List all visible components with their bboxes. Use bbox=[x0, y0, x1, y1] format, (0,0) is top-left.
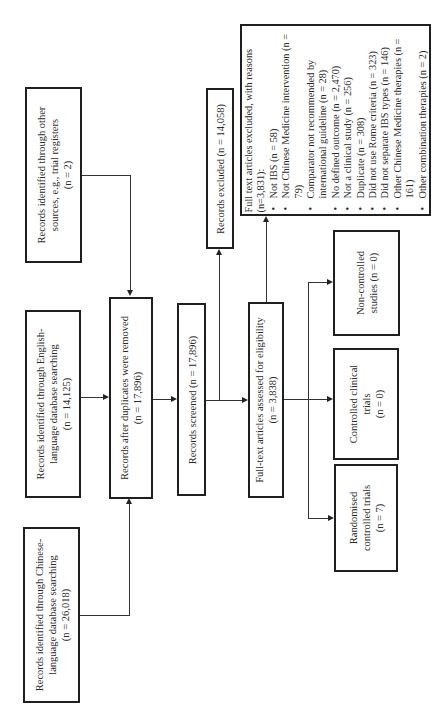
exclusion-reason: No defined outcome (n = 2,470) bbox=[329, 28, 341, 199]
other-sources-box: Records identified through other sources… bbox=[25, 87, 82, 263]
english-database-box: Records identified through English- lang… bbox=[25, 310, 81, 498]
exclusion-reason: Duplicate (n = 308) bbox=[354, 28, 366, 199]
non-controlled-box: Non-controlled studies (n = 0) bbox=[333, 230, 400, 336]
records-excluded-text: Records excluded (n = 14,058) bbox=[214, 90, 227, 248]
records-screened-box: Records screened (n = 17,896) bbox=[177, 303, 206, 496]
connector-line bbox=[129, 500, 130, 616]
exclusion-reason: Did not use Rome criteria (n = 323) bbox=[367, 28, 379, 199]
exclusion-reason: Did not separate IBS types (n = 146) bbox=[379, 28, 391, 199]
exclusion-reason: Not a clinical study (n = 256) bbox=[342, 28, 354, 199]
connector-line bbox=[266, 222, 267, 302]
connector-line bbox=[130, 175, 131, 291]
exclusion-reason: Other Chinese Medicine therapies (n = 16… bbox=[391, 28, 416, 199]
chinese-database-box: Records identified through Chinese- lang… bbox=[23, 527, 80, 703]
after-duplicates-text: Records after duplicates were removed (n… bbox=[118, 300, 144, 496]
arrow-head-icon bbox=[328, 515, 334, 521]
connector-line bbox=[153, 399, 173, 400]
arrow-head-icon bbox=[103, 394, 109, 400]
connector-line bbox=[308, 282, 329, 283]
fulltext-excluded-box: Full text articles excluded, with reason… bbox=[240, 24, 431, 216]
fulltext-excluded-text: Full text articles excluded, with reason… bbox=[242, 28, 428, 213]
cct-text: Controlled clinical trials (n = 0) bbox=[347, 351, 386, 457]
arrow-head-icon bbox=[327, 279, 333, 285]
exclusion-reason: Other combination therapies (n = 2) bbox=[416, 28, 428, 199]
arrow-head-icon bbox=[126, 498, 132, 504]
connector-line bbox=[219, 255, 220, 401]
exclusion-reason: Not IBS (n = 58) bbox=[267, 28, 279, 199]
records-screened-text: Records screened (n = 17,896) bbox=[185, 305, 198, 495]
cct-box: Controlled clinical trials (n = 0) bbox=[333, 348, 399, 460]
other-sources-text: Records identified through other sources… bbox=[34, 90, 73, 260]
fulltext-assessed-box: Full-text articles assessed for eligibil… bbox=[248, 302, 284, 498]
exclusion-reason: Comparator not recommended by internatio… bbox=[304, 28, 329, 199]
rct-text: Randomised controlled trials (n = 7) bbox=[347, 466, 386, 570]
connector-line bbox=[206, 400, 244, 401]
connector-line bbox=[308, 282, 309, 519]
connector-line bbox=[284, 399, 329, 400]
connector-line bbox=[80, 615, 130, 616]
arrow-head-icon bbox=[263, 216, 269, 222]
arrow-head-icon bbox=[242, 397, 248, 403]
connector-line bbox=[82, 175, 131, 176]
chinese-database-text: Records identified through Chinese- lang… bbox=[32, 530, 71, 700]
records-excluded-box: Records excluded (n = 14,058) bbox=[206, 88, 234, 249]
arrow-head-icon bbox=[327, 396, 333, 402]
rct-box: Randomised controlled trials (n = 7) bbox=[334, 464, 398, 572]
arrow-head-icon bbox=[171, 396, 177, 402]
non-controlled-text: Non-controlled studies (n = 0) bbox=[354, 233, 380, 333]
exclusion-reason: Not Chinese Medicine intervention (n = 7… bbox=[280, 28, 305, 199]
arrow-head-icon bbox=[127, 290, 133, 296]
exclusion-reasons-list: Not IBS (n = 58) Not Chinese Medicine in… bbox=[267, 28, 428, 213]
arrow-head-icon bbox=[216, 249, 222, 255]
english-database-text: Records identified through English- lang… bbox=[34, 314, 73, 494]
connector-line bbox=[308, 518, 330, 519]
after-duplicates-box: Records after duplicates were removed (n… bbox=[109, 297, 153, 499]
fulltext-assessed-text: Full-text articles assessed for eligibil… bbox=[253, 304, 279, 496]
